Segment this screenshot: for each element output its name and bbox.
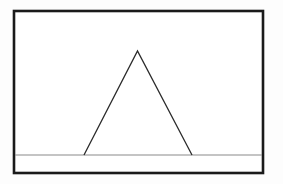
frame-interior [14, 11, 263, 173]
figure-container [0, 0, 283, 184]
line-drawing-figure [0, 0, 283, 184]
